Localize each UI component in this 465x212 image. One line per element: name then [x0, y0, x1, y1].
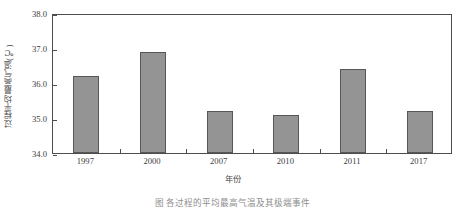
- bar: [273, 115, 299, 154]
- y-axis-tick-label: 38.0: [32, 10, 47, 19]
- x-axis-title: 年份: [0, 172, 465, 184]
- chart-figure: 过程平均最高气温(℃) 34.035.036.037.038.0 1997200…: [0, 0, 465, 212]
- y-axis-tick-mark: [53, 50, 57, 51]
- bar: [340, 69, 366, 153]
- y-axis-tick-mark: [53, 155, 57, 156]
- y-axis-title-text: 过程平均最高气温(℃): [4, 44, 16, 128]
- x-axis-tick-label: 2007: [210, 157, 227, 166]
- plot-frame: [52, 14, 452, 154]
- bar: [140, 52, 166, 154]
- y-axis-tick-labels: 34.035.036.037.038.0: [18, 14, 50, 154]
- x-axis-tick-mark: [386, 149, 387, 153]
- y-axis-tick-label: 35.0: [32, 115, 47, 124]
- x-axis-tick-label: 2000: [143, 157, 160, 166]
- y-axis-tick-mark: [53, 120, 57, 121]
- x-axis-tick-mark: [186, 149, 187, 153]
- x-axis-tick-label: 2010: [277, 157, 294, 166]
- y-axis-tick-mark: [53, 85, 57, 86]
- y-axis-tick-mark: [53, 15, 57, 16]
- x-axis-tick-label: 1997: [77, 157, 94, 166]
- x-axis-tick-mark: [253, 149, 254, 153]
- bar: [73, 76, 99, 153]
- bar: [407, 111, 433, 153]
- figure-caption: 图 各过程的平均最高气温及其极端事件: [0, 196, 465, 208]
- bar: [207, 111, 233, 153]
- figure-caption-label: 图: [155, 198, 164, 208]
- x-axis-tick-mark: [120, 149, 121, 153]
- x-axis-tick-mark: [320, 149, 321, 153]
- y-axis-tick-label: 34.0: [32, 150, 47, 159]
- y-axis-title: 过程平均最高气温(℃): [2, 18, 18, 154]
- x-axis-tick-label: 2017: [410, 157, 427, 166]
- x-axis-tick-label: 2011: [344, 157, 361, 166]
- plot-area: [53, 15, 451, 153]
- y-axis-tick-label: 37.0: [32, 45, 47, 54]
- y-axis-tick-label: 36.0: [32, 80, 47, 89]
- figure-caption-text: 各过程的平均最高气温及其极端事件: [166, 198, 310, 208]
- x-axis-tick-labels: 199720002007201020112017: [52, 157, 452, 171]
